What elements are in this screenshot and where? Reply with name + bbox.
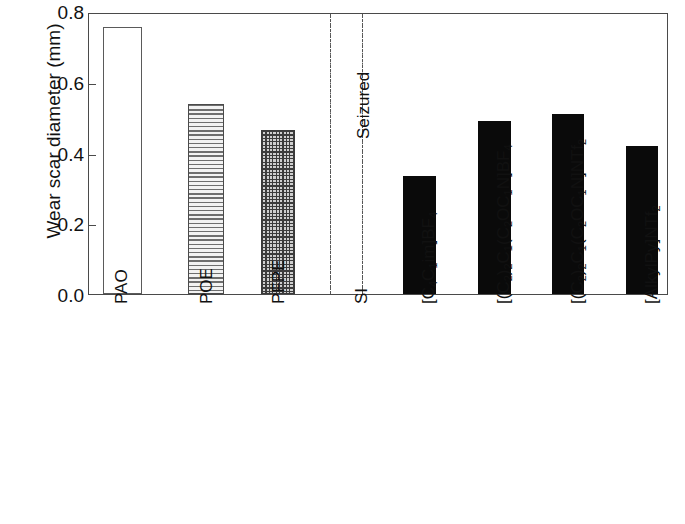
y-tick-label-0_0: 0.0: [38, 286, 84, 305]
x-label-c2-2c1-c2oc1n-ntf2: [(C2)2C1(C2OC1N]NTf2: [569, 139, 586, 304]
x-label-c4c1im-bf4: [C4C1im]BF4: [420, 212, 437, 304]
y-axis-tick-labels: 0.8 0.6 0.4 0.2 0.0: [12, 0, 84, 524]
x-label-si: SI: [353, 288, 370, 304]
bar-poe: [188, 104, 224, 294]
bar-pao: [103, 27, 142, 294]
seizured-annotation: Seizured: [354, 72, 374, 139]
seizure-region-line-right: [362, 14, 363, 294]
seizure-region-line-left: [330, 14, 331, 294]
y-tick-mark-0_6: [88, 84, 96, 85]
y-tick-mark-0_4: [88, 155, 96, 156]
wear-scar-diameter-bar-chart: Wear scar diameter (mm) 0.8 0.6 0.4 0.2 …: [0, 0, 685, 524]
x-label-pao: PAO: [113, 269, 130, 304]
y-tick-label-0_8: 0.8: [38, 3, 84, 22]
x-label-alkylpy-ntf2: [AlkylPy]NTf2: [643, 205, 660, 304]
y-tick-label-0_2: 0.2: [38, 215, 84, 234]
x-label-c2-2c1-c2oc1n-bf4: [(C2)2C1(C2OC1N]BF4: [495, 144, 512, 304]
x-label-poe: POE: [198, 268, 215, 304]
y-tick-mark-0_2: [88, 225, 96, 226]
y-tick-label-0_4: 0.4: [38, 145, 84, 164]
y-tick-label-0_6: 0.6: [38, 74, 84, 93]
x-label-pfpe: PFPE: [270, 260, 287, 304]
